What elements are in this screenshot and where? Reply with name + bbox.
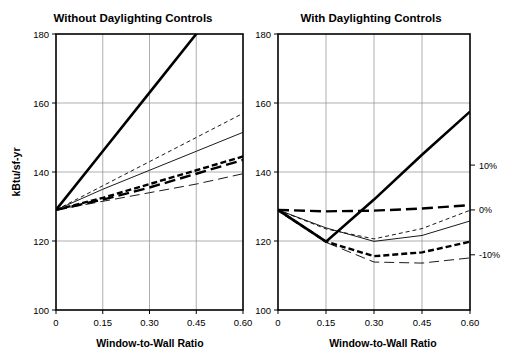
chart-panel-without-daylighting: Without Daylighting Controls kBtu/sf-yr …: [0, 0, 262, 364]
chart-panel-with-daylighting: With Daylighting Controls Window-to-Wall…: [253, 0, 515, 364]
chart-svg-right: With Daylighting Controls Window-to-Wall…: [253, 0, 515, 364]
plot-area-right: 10012014016018000.150.300.450.6010%0%-10…: [255, 29, 500, 329]
y-tick-label: 100: [33, 305, 49, 316]
x-tick-label: 0.45: [413, 317, 432, 328]
y-tick-label: 180: [33, 29, 49, 40]
y-tick-label: 120: [255, 236, 271, 247]
x-axis-label-left: Window-to-Wall Ratio: [96, 337, 203, 349]
x-tick-label: 0: [275, 317, 280, 328]
y-tick-label: 140: [255, 167, 271, 178]
x-tick-label: 0.60: [234, 317, 253, 328]
x-tick-label: 0: [53, 317, 58, 328]
y-tick-label: 160: [33, 98, 49, 109]
chart-title-left: Without Daylighting Controls: [54, 12, 213, 24]
y-tick-label: 160: [255, 98, 271, 109]
y-tick-label: 100: [255, 305, 271, 316]
x-tick-label: 0.30: [140, 317, 159, 328]
x-tick-label: 0.15: [317, 317, 336, 328]
x-tick-label: 0.60: [461, 317, 480, 328]
secondary-axis-tick-label: 10%: [479, 161, 497, 171]
y-tick-label: 180: [255, 29, 271, 40]
y-tick-label: 120: [33, 236, 49, 247]
x-tick-label: 0.30: [365, 317, 384, 328]
chart-title-right: With Daylighting Controls: [300, 12, 441, 24]
x-tick-label: 0.45: [187, 317, 206, 328]
x-tick-label: 0.15: [94, 317, 113, 328]
secondary-axis-tick-label: 0%: [479, 205, 492, 215]
y-tick-label: 140: [33, 167, 49, 178]
chart-svg-left: Without Daylighting Controls kBtu/sf-yr …: [0, 0, 262, 364]
plot-area-left: 10012014016018000.150.300.450.60: [33, 0, 252, 328]
y-axis-label: kBtu/sf-yr: [10, 147, 22, 196]
secondary-axis-tick-label: -10%: [479, 250, 500, 260]
figure-root: Without Daylighting Controls kBtu/sf-yr …: [0, 0, 515, 364]
x-axis-label-right: Window-to-Wall Ratio: [329, 337, 436, 349]
